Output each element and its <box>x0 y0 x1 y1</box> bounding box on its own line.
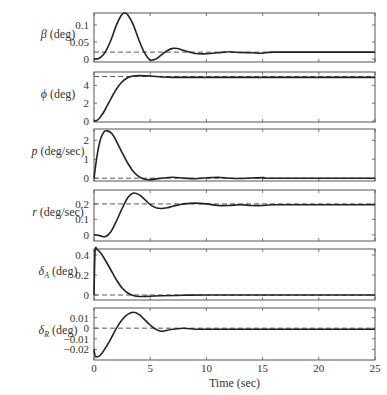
stacked-time-response-chart: 00.050.1β (deg)024ϕ (deg)012p (deg/sec)0… <box>0 0 387 395</box>
x-tick-label: 15 <box>257 362 269 374</box>
response-curve <box>94 13 375 60</box>
panel-r: 00.10.2r (deg/sec) <box>32 190 375 241</box>
response-curve <box>94 312 375 357</box>
panel-delta-r: 0.010−0.01−0.02δR (deg) <box>39 308 375 360</box>
panel-beta: 00.050.1β (deg) <box>40 13 375 65</box>
x-tick-label: 0 <box>91 362 97 374</box>
y-tick-label: 0 <box>84 172 90 184</box>
panel-delta-a: 00.20.4δA (deg) <box>39 247 375 301</box>
y-tick-label: 0 <box>84 229 90 241</box>
x-axis-label: Time (sec) <box>209 376 260 390</box>
axes-frame <box>94 249 375 300</box>
y-axis-label: δR (deg) <box>39 323 78 339</box>
y-axis-label: r (deg/sec) <box>32 205 84 219</box>
y-tick-label: 2 <box>84 97 90 109</box>
response-curve <box>94 76 375 122</box>
y-tick-label: 4 <box>84 79 90 91</box>
response-curve <box>94 193 375 237</box>
panel-phi: 024ϕ (deg) <box>41 72 375 127</box>
y-axis-label: β (deg) <box>40 27 75 41</box>
axes-frame <box>94 13 375 62</box>
x-tick-label: 10 <box>201 362 213 374</box>
panel-p: 012p (deg/sec) <box>31 129 375 184</box>
x-tick-label: 20 <box>313 362 325 374</box>
axes-frame <box>94 129 375 181</box>
y-tick-label: 0.4 <box>75 249 89 261</box>
y-tick-label: 0 <box>84 289 90 301</box>
y-axis-label: ϕ (deg) <box>41 87 76 101</box>
x-tick-label: 5 <box>147 362 153 374</box>
axes-frame <box>94 72 375 122</box>
response-curve <box>94 131 375 180</box>
y-tick-label: 0.1 <box>75 19 89 31</box>
y-tick-label: 0 <box>84 53 90 65</box>
y-tick-label: 0 <box>84 115 90 127</box>
axes-frame <box>94 308 375 360</box>
y-axis-label: p (deg/sec) <box>31 144 85 158</box>
axes-frame <box>94 190 375 241</box>
x-tick-label: 25 <box>370 362 382 374</box>
y-axis-label: δA (deg) <box>39 264 78 280</box>
y-tick-label: −0.02 <box>64 343 89 355</box>
response-curve <box>94 247 375 296</box>
